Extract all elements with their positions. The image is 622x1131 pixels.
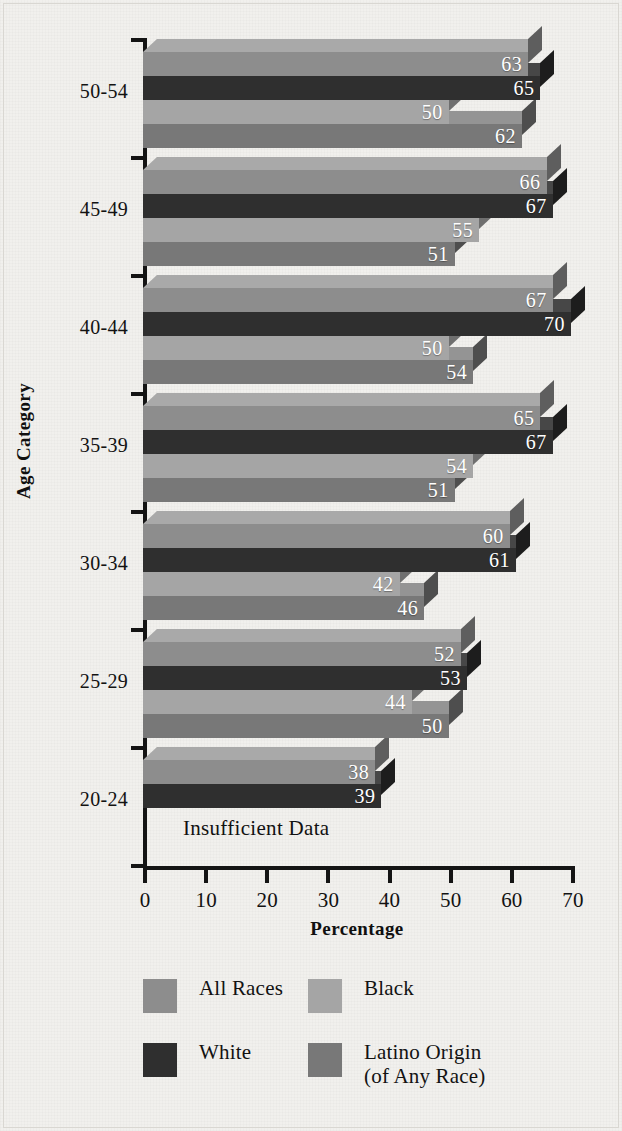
- bar-face: [143, 760, 375, 784]
- bar-side-face: [553, 262, 567, 299]
- legend-item[interactable]: White: [143, 1041, 308, 1088]
- bar-side-face: [516, 522, 530, 559]
- bar-side-face: [449, 688, 463, 725]
- bar-black: 42: [143, 572, 400, 596]
- bar-white: 70: [143, 312, 571, 336]
- bar-latino-origin-of-any-race: 51: [143, 242, 455, 266]
- bar-face: [143, 572, 400, 596]
- legend-item[interactable]: Latino Origin(of Any Race): [308, 1041, 563, 1088]
- bar-latino-origin-of-any-race: 54: [143, 360, 473, 384]
- bar-value-label: 67: [526, 289, 547, 312]
- bar-face: [143, 336, 449, 360]
- legend-items: All RacesBlackWhiteLatino Origin(of Any …: [143, 977, 563, 1088]
- bar-face: [143, 360, 473, 384]
- bar-value-label: 67: [526, 195, 547, 218]
- bar-face: [143, 194, 553, 218]
- bar-face: [143, 642, 461, 666]
- plot-area: 50-5445-4940-4435-3930-3425-2920-24 0102…: [0, 0, 622, 930]
- bar-all-races: 65: [143, 406, 540, 430]
- bar-face: [143, 288, 553, 312]
- bar-all-races: 66: [143, 170, 547, 194]
- bar-white: 53: [143, 666, 467, 690]
- bar-black: 54: [143, 454, 473, 478]
- bar-white: 67: [143, 430, 553, 454]
- bar-value-label: 66: [520, 171, 541, 194]
- bar-side-face: [467, 640, 481, 677]
- bar-white: 39: [143, 784, 381, 808]
- bar-face: [143, 430, 553, 454]
- bar-face: [143, 406, 540, 430]
- legend-swatch-icon: [308, 979, 342, 1013]
- y-axis-title: Age Category: [13, 351, 35, 531]
- chart-figure: 50-5445-4940-4435-3930-3425-2920-24 0102…: [0, 0, 622, 1131]
- legend-swatch-icon: [143, 979, 177, 1013]
- legend-label: Latino Origin(of Any Race): [364, 1041, 486, 1088]
- bar-side-face: [540, 380, 554, 417]
- bar-latino-origin-of-any-race: 51: [143, 478, 455, 502]
- bar-face: [143, 76, 540, 100]
- bar-value-label: 44: [385, 691, 406, 714]
- bar-side-face: [553, 404, 567, 441]
- bar-value-label: 50: [422, 101, 443, 124]
- bar-face: [143, 52, 528, 76]
- bar-value-label: 61: [489, 549, 510, 572]
- bar-face: [143, 170, 547, 194]
- bar-face: [143, 690, 412, 714]
- bar-side-face: [522, 98, 536, 135]
- bar-value-label: 65: [513, 77, 534, 100]
- bar-side-face: [571, 286, 585, 323]
- bar-face: [143, 242, 455, 266]
- bar-top-face: [143, 275, 567, 288]
- bar-latino-origin-of-any-race: 46: [143, 596, 424, 620]
- bar-top-face: [143, 393, 554, 406]
- bar-side-face: [540, 50, 554, 87]
- bar-value-label: 60: [483, 525, 504, 548]
- bar-black: 44: [143, 690, 412, 714]
- bar-face: [143, 548, 516, 572]
- bar-value-label: 54: [446, 361, 467, 384]
- bar-face: [143, 100, 449, 124]
- legend-label-sub: (of Any Race): [364, 1065, 486, 1089]
- bar-value-label: 39: [354, 785, 375, 808]
- bar-value-label: 50: [422, 337, 443, 360]
- bar-black: 50: [143, 336, 449, 360]
- bar-top-face: [143, 157, 560, 170]
- legend-label: Black: [364, 977, 414, 1001]
- bar-value-label: 46: [397, 597, 418, 620]
- legend-swatch-icon: [308, 1043, 342, 1077]
- legend-item[interactable]: All Races: [143, 977, 308, 1013]
- bar-face: [143, 124, 522, 148]
- bar-top-face: [143, 747, 389, 760]
- legend-item[interactable]: Black: [308, 977, 563, 1013]
- bar-value-label: 52: [434, 643, 455, 666]
- bar-top-face: [143, 39, 542, 52]
- x-axis-title: Percentage: [143, 918, 571, 940]
- bar-value-label: 62: [495, 125, 516, 148]
- legend-swatch-icon: [143, 1043, 177, 1077]
- bar-value-label: 65: [513, 407, 534, 430]
- bar-face: [143, 714, 449, 738]
- bar-value-label: 67: [526, 431, 547, 454]
- bar-series-container: 3938504453524642616051546765545070675155…: [0, 0, 622, 930]
- bar-value-label: 42: [373, 573, 394, 596]
- bar-face: [143, 312, 571, 336]
- bar-value-label: 53: [440, 667, 461, 690]
- insufficient-data-note: Insufficient Data: [183, 816, 329, 841]
- bar-white: 65: [143, 76, 540, 100]
- bar-top-face: [143, 629, 475, 642]
- legend: All RacesBlackWhiteLatino Origin(of Any …: [0, 955, 622, 1131]
- bar-face: [143, 784, 381, 808]
- bar-face: [143, 666, 467, 690]
- bar-top-face: [143, 511, 524, 524]
- bar-all-races: 38: [143, 760, 375, 784]
- bar-face: [143, 478, 455, 502]
- bar-all-races: 60: [143, 524, 510, 548]
- bar-side-face: [424, 570, 438, 607]
- bar-all-races: 63: [143, 52, 528, 76]
- bar-value-label: 70: [544, 313, 565, 336]
- bar-value-label: 55: [452, 219, 473, 242]
- bar-value-label: 54: [446, 455, 467, 478]
- bar-all-races: 52: [143, 642, 461, 666]
- bar-value-label: 51: [428, 479, 449, 502]
- bar-face: [143, 454, 473, 478]
